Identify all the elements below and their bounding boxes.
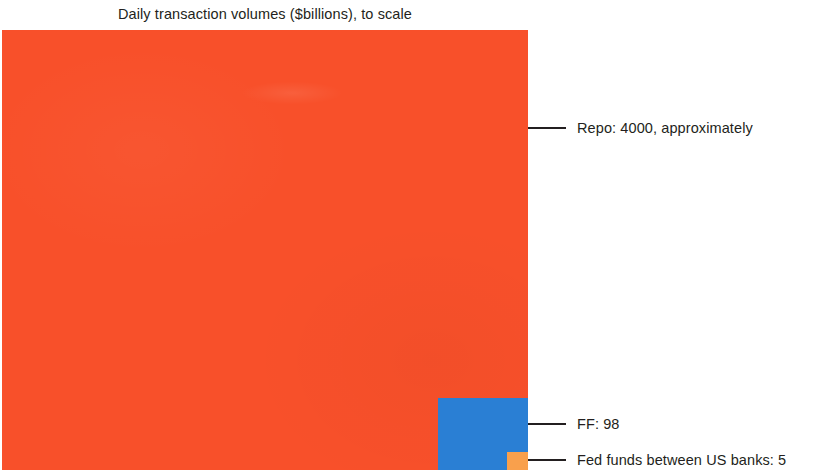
chart-title: Daily transaction volumes ($billions), t… [0,4,530,24]
area-square-fed-funds [507,452,528,470]
leader-line-icon [528,127,566,129]
leader-line-icon [528,423,566,425]
callout-fed-funds-label: Fed funds between US banks: 5 [577,450,786,470]
callout-repo-label: Repo: 4000, approximately [577,118,753,138]
callout-ff-label: FF: 98 [577,414,620,434]
callout-ff: FF: 98 [528,414,620,434]
callout-repo: Repo: 4000, approximately [528,118,753,138]
proportional-area-chart: Daily transaction volumes ($billions), t… [0,0,824,470]
leader-line-icon [528,459,566,461]
callout-fed-funds: Fed funds between US banks: 5 [528,450,786,470]
